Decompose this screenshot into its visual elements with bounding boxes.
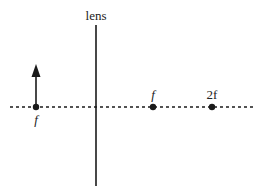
object-point xyxy=(33,104,39,110)
two-focal-point xyxy=(209,104,215,110)
lens-label: lens xyxy=(86,8,107,23)
object-label: f xyxy=(34,112,40,127)
two-focal-label: 2f xyxy=(207,87,219,102)
focal-label: f xyxy=(151,87,157,102)
focal-point xyxy=(150,104,156,110)
arrow-head-icon xyxy=(32,64,41,77)
lens-diagram: lens f f 2f xyxy=(0,0,261,195)
